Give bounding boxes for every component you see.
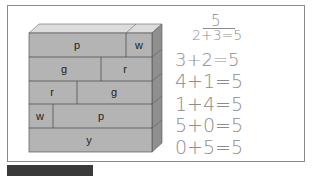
- brick-w-row1: w: [135, 40, 143, 51]
- brick-y-row5: y: [86, 135, 92, 146]
- equation-line-2: 3+2=5: [175, 49, 240, 70]
- equation-line-5: 5+0=5: [175, 114, 243, 136]
- equation-line-6: 0+5=5: [175, 136, 243, 158]
- equation-line-1: 2+3=5: [192, 27, 242, 43]
- brick-p-row1: p: [74, 40, 80, 51]
- brick-p-row4: p: [98, 111, 104, 122]
- equation-line-3: 4+1=5: [175, 70, 243, 92]
- brick-r-row2: r: [123, 64, 127, 75]
- brick-g-row3: g: [111, 87, 117, 98]
- handwritten-equations: 5 2+3=5 3+2=5 4+1=5 1+4=5 5+0=5 0+5=5: [175, 12, 285, 152]
- footer-bar: [7, 165, 93, 176]
- equation-line-4: 1+4=5: [175, 93, 243, 115]
- brick-r-row3: r: [50, 87, 54, 98]
- brick-g-row2: g: [61, 64, 67, 75]
- brick-w-row4: w: [36, 111, 44, 122]
